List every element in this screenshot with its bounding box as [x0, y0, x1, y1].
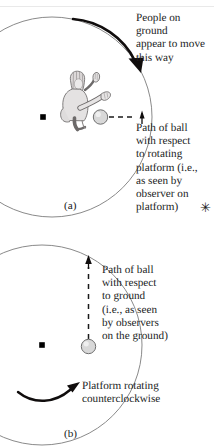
ball-icon	[81, 339, 95, 353]
panel-b-label: (b)	[64, 427, 77, 440]
center-dot-icon	[39, 342, 45, 348]
figure-root: People on ground appear to move this way…	[0, 0, 214, 446]
dashed-vertical-path-icon	[85, 255, 92, 339]
ball-icon	[93, 110, 107, 124]
curved-arrow-clockwise-icon	[73, 19, 144, 73]
panel-a-footnote-mark: ✳	[200, 201, 211, 214]
center-dot-icon	[40, 114, 46, 120]
panel-a-label: (a)	[64, 199, 76, 212]
curved-arrow-counterclockwise-icon	[18, 382, 80, 401]
panel-b-rotation-note: Platform rotating counterclockwise	[82, 380, 212, 406]
panel-b-path-note: Path of ball with respect to ground (i.e…	[102, 264, 206, 343]
panel-a: People on ground appear to move this way…	[0, 0, 214, 223]
panel-b: Path of ball with respect to ground (i.e…	[0, 223, 214, 446]
panel-a-rotation-note: People on ground appear to move this way	[136, 12, 214, 65]
